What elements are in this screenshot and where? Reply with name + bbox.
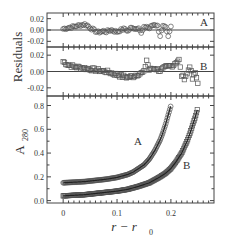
y-tick-label: 0.0 — [34, 197, 44, 206]
residuals-axis-label: Residuals — [10, 32, 25, 83]
curve-a-tag: A — [134, 135, 142, 147]
panel-a-tag: A — [200, 16, 208, 28]
y-tick-label: 0.02 — [30, 15, 44, 24]
y-tick-label: 0.6 — [34, 125, 44, 134]
x-axis-label-sub: 0 — [149, 228, 153, 237]
x-tick-label: 0.2 — [166, 209, 176, 218]
x-tick-label: 0 — [61, 209, 65, 218]
panel-b-tag: B — [200, 60, 207, 72]
residual-fit-figure: 0.020.00-0.020.020.00-0.020.00.20.40.60.… — [0, 0, 225, 245]
axis-ticks: 0.020.00-0.020.020.00-0.020.00.20.40.60.… — [27, 13, 214, 218]
x-axis-label-main: r − r — [111, 219, 137, 234]
fit-line-a — [63, 106, 170, 182]
y-tick-label: 0.8 — [34, 102, 44, 111]
y-tick-label: 0.4 — [34, 149, 44, 158]
y-tick-label: -0.02 — [27, 84, 44, 93]
a280-label-sub: 280 — [21, 129, 30, 141]
figure-canvas: 0.020.00-0.020.020.00-0.020.00.20.40.60.… — [0, 0, 225, 245]
x-tick-label: 0.1 — [112, 209, 122, 218]
y-tick-label: 0.00 — [30, 68, 44, 77]
a280-label-main: A — [12, 145, 27, 155]
y-tick-label: 0.2 — [34, 173, 44, 182]
absorbance-points — [61, 104, 200, 198]
curve-b-tag: B — [183, 159, 190, 171]
a280-axis-label: A 280 — [12, 129, 30, 155]
y-tick-label: -0.02 — [27, 37, 44, 46]
y-tick-label: 0.00 — [30, 26, 44, 35]
y-tick-label: 0.02 — [30, 51, 44, 60]
